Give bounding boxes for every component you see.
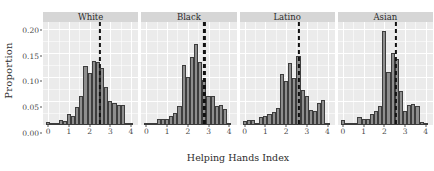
x-axis-tick-label: 4 [129, 127, 134, 136]
bar-group [141, 22, 236, 125]
facet-strip: White [43, 12, 138, 22]
facet-strip: Latino [240, 12, 335, 22]
y-axis-tick-mark [40, 29, 42, 30]
y-axis-tick-mark [40, 81, 42, 82]
facet-panel-row: White01234Black01234Latino01234Asian0123… [43, 12, 433, 138]
y-axis-tick-label: 0.15 [22, 51, 39, 60]
y-axis-tick-mark [40, 107, 42, 108]
x-axis-tick-label: 2 [185, 127, 190, 136]
facet-strip-label: White [78, 13, 103, 22]
facet-strip-label: Black [177, 13, 201, 22]
x-axis: 01234 [240, 125, 335, 138]
y-axis-tick-group: 0.000.050.100.150.20 [16, 22, 42, 133]
facet-panel-white: White01234 [43, 12, 138, 138]
faceted-histogram-chart: Proportion 0.000.050.100.150.20 White012… [0, 0, 434, 171]
mean-reference-line [203, 22, 205, 125]
mean-reference-line [395, 22, 397, 125]
plot-area [141, 22, 236, 125]
x-axis-tick-label: 3 [304, 127, 309, 136]
x-axis-title: Helping Hands Index [43, 152, 433, 163]
histogram-bar [321, 100, 325, 125]
x-axis: 01234 [338, 125, 433, 138]
x-axis-tick-label: 0 [46, 127, 51, 136]
x-axis-tick-label: 2 [382, 127, 387, 136]
x-axis: 01234 [141, 125, 236, 138]
x-axis-tick-label: 0 [341, 127, 346, 136]
y-axis-tick-mark [40, 55, 42, 56]
facet-panel-black: Black01234 [141, 12, 236, 138]
facet-strip-label: Asian [373, 13, 397, 22]
y-axis-tick-label: 0.10 [22, 77, 39, 86]
x-axis-tick-label: 0 [242, 127, 247, 136]
facet-strip: Black [141, 12, 236, 22]
x-axis-tick-label: 1 [66, 127, 71, 136]
bar-group [338, 22, 433, 125]
x-axis-tick-label: 3 [403, 127, 408, 136]
x-axis-tick-label: 3 [108, 127, 113, 136]
x-axis-tick-label: 1 [361, 127, 366, 136]
x-axis-tick-label: 4 [423, 127, 428, 136]
plot-area [240, 22, 335, 125]
y-axis-title: Proportion [0, 0, 17, 140]
mean-reference-line [297, 22, 299, 125]
bar-group [43, 22, 138, 125]
facet-panel-asian: Asian01234 [338, 12, 433, 138]
x-axis: 01234 [43, 125, 138, 138]
x-axis-tick-label: 2 [87, 127, 92, 136]
y-axis-tick-label: 0.05 [22, 103, 39, 112]
bar-group [240, 22, 335, 125]
x-axis-tick-label: 4 [325, 127, 330, 136]
y-axis-tick-mark [40, 133, 42, 134]
facet-strip-label: Latino [273, 13, 300, 22]
y-axis-title-label: Proportion [3, 42, 14, 98]
x-axis-tick-label: 4 [227, 127, 232, 136]
plot-area [338, 22, 433, 125]
mean-reference-line [99, 22, 101, 125]
facet-strip: Asian [338, 12, 433, 22]
x-axis-tick-label: 1 [165, 127, 170, 136]
plot-area [43, 22, 138, 125]
y-axis-tick-label: 0.00 [22, 129, 39, 138]
x-axis-tick-label: 0 [144, 127, 149, 136]
x-axis-tick-label: 2 [284, 127, 289, 136]
x-axis-tick-label: 1 [263, 127, 268, 136]
x-axis-tick-label: 3 [206, 127, 211, 136]
facet-panel-latino: Latino01234 [240, 12, 335, 138]
y-axis-tick-label: 0.20 [22, 25, 39, 34]
